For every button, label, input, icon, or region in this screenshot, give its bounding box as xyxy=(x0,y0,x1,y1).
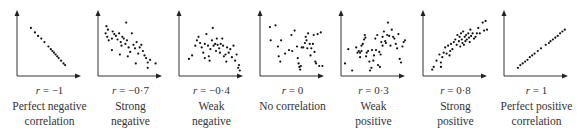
r-value-label: r = −0·4 xyxy=(171,84,252,97)
data-point xyxy=(47,45,49,47)
scatter-panel: r = 0·3Weakpositive xyxy=(333,0,414,133)
scatter-plot xyxy=(415,0,496,82)
data-point xyxy=(239,69,241,71)
data-point xyxy=(450,43,452,45)
data-point xyxy=(284,53,286,55)
data-point xyxy=(526,59,528,61)
data-point xyxy=(474,36,476,38)
data-point xyxy=(129,51,131,53)
data-point xyxy=(454,38,456,40)
scatter-plot xyxy=(9,0,90,82)
scatter-plot xyxy=(252,0,333,82)
data-point xyxy=(309,43,311,45)
scatter-panel: r = −0·7Strongnegative xyxy=(90,0,171,133)
data-point xyxy=(191,54,193,56)
data-point xyxy=(472,32,474,34)
data-point xyxy=(545,44,547,46)
data-point xyxy=(486,29,488,31)
r-value-label: r = 1 xyxy=(496,84,577,97)
data-point xyxy=(134,47,136,49)
data-point xyxy=(155,62,157,64)
data-point xyxy=(524,61,526,63)
data-point xyxy=(464,36,466,38)
data-point xyxy=(379,66,381,68)
data-point xyxy=(216,38,218,40)
data-point xyxy=(218,47,220,49)
scatter-panel: r = −0·4Weaknegative xyxy=(171,0,252,133)
data-point xyxy=(459,45,461,47)
data-point xyxy=(290,34,292,36)
data-point xyxy=(143,54,145,56)
data-point xyxy=(120,45,122,47)
data-point xyxy=(43,41,45,43)
data-point xyxy=(397,33,399,35)
data-point xyxy=(347,48,349,50)
data-point xyxy=(225,61,227,63)
data-point xyxy=(387,22,389,24)
data-point xyxy=(40,38,42,40)
data-point xyxy=(309,54,311,56)
data-point xyxy=(123,38,125,40)
data-point xyxy=(448,54,450,56)
data-point xyxy=(395,43,397,45)
data-point xyxy=(196,39,198,41)
data-point xyxy=(294,30,296,32)
data-point xyxy=(464,40,466,42)
data-point xyxy=(236,53,238,55)
data-point xyxy=(147,61,149,63)
data-point xyxy=(440,61,442,63)
x-axis-arrow-icon xyxy=(481,74,487,79)
data-point xyxy=(288,49,290,51)
data-point xyxy=(468,37,470,39)
data-point xyxy=(238,64,240,66)
data-point xyxy=(304,42,306,44)
data-point xyxy=(120,41,122,43)
data-point xyxy=(220,43,222,45)
data-point xyxy=(456,44,458,46)
data-point xyxy=(374,38,376,40)
data-point xyxy=(317,33,319,35)
data-point xyxy=(519,64,521,66)
r-value-label: r = 0 xyxy=(252,84,333,97)
data-point xyxy=(313,34,315,36)
data-point xyxy=(529,56,531,58)
data-point xyxy=(209,48,211,50)
data-point xyxy=(188,58,190,60)
data-point xyxy=(559,32,561,34)
data-point xyxy=(202,52,204,54)
data-point xyxy=(209,60,211,62)
data-point xyxy=(444,46,446,48)
data-point xyxy=(127,55,129,57)
data-point xyxy=(280,39,282,41)
data-point xyxy=(204,43,206,45)
x-axis-arrow-icon xyxy=(237,74,243,79)
y-axis-arrow-icon xyxy=(502,10,507,16)
data-point xyxy=(517,67,519,69)
data-point xyxy=(364,37,366,39)
data-point xyxy=(111,38,113,40)
data-point xyxy=(132,44,134,46)
data-point xyxy=(378,51,380,53)
data-point xyxy=(458,40,460,42)
data-point xyxy=(277,45,279,47)
data-point xyxy=(377,64,379,66)
data-point xyxy=(548,42,550,44)
data-point xyxy=(403,41,405,43)
data-point xyxy=(380,53,382,55)
r-value-label: r = 0·8 xyxy=(415,84,496,97)
data-point xyxy=(51,50,53,52)
data-point xyxy=(467,32,469,34)
data-point xyxy=(279,61,281,63)
data-point xyxy=(522,62,524,64)
data-point xyxy=(53,52,55,54)
data-point xyxy=(126,39,128,41)
data-point xyxy=(369,69,371,71)
data-point xyxy=(119,53,121,55)
data-point xyxy=(441,56,443,58)
data-point xyxy=(269,26,271,28)
data-point xyxy=(231,56,233,58)
data-point xyxy=(363,38,365,40)
data-point xyxy=(298,62,300,64)
data-point xyxy=(124,43,126,45)
data-point xyxy=(199,42,201,44)
